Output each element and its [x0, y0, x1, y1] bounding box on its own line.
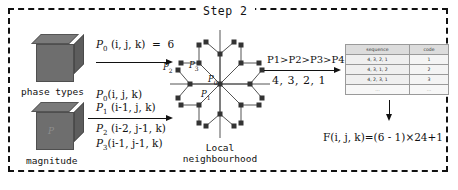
neighbourhood-caption-line1: Local [206, 142, 235, 153]
middle-arrow-head [334, 67, 341, 73]
cube-side-face [74, 102, 84, 142]
table-cell-sequence: 4, 3, 1, 2 [346, 65, 410, 75]
neighbourhood-label-p3: P3 [189, 60, 199, 72]
cube-top-face [31, 102, 79, 112]
arrow-top-shaft [96, 62, 168, 63]
table-cell-sequence: 4, 3, 2, 1 [346, 55, 410, 65]
phase-types-cube-icon [26, 34, 86, 84]
table-header-code: code [409, 45, 448, 55]
table-cell-code: 1 [409, 55, 448, 65]
neighbourhood-label-p1: P1 [201, 89, 211, 101]
magnitude-caption: magnitude [26, 155, 77, 166]
neighbourhood-label-p0: P0 [208, 74, 218, 86]
table-cell-code: ... [409, 85, 448, 95]
down-arrow-head [386, 114, 392, 121]
arrow-bottom-label-p3: P3(i-1, j-1, k) [96, 137, 163, 152]
figure-canvas: Step 2 phase types P0 (i, j, k) = 6 P ma… [0, 0, 458, 190]
magnitude-cube-mark: P [48, 126, 54, 136]
arrow-bottom-label-p1: P1 (i-1, j, k) [96, 101, 156, 116]
magnitude-cube-icon: P [26, 102, 86, 152]
step-title: Step 2 [196, 4, 255, 18]
local-neighbourhood-diagram [168, 28, 272, 140]
neighbourhood-label-p2: P2 [163, 62, 173, 74]
table-cell-code: 2 [409, 65, 448, 75]
cube-front-face [36, 44, 74, 82]
cube-top-face [31, 34, 79, 44]
table-cell-sequence: ... [346, 85, 410, 95]
table-row: 4, 3, 1, 2 2 [346, 65, 449, 75]
table-row: 4, 2, 3, 1 3 [346, 75, 449, 85]
table-cell-sequence: 4, 2, 3, 1 [346, 75, 410, 85]
table-header-sequence: sequence [346, 45, 410, 55]
phase-types-caption: phase types [21, 86, 84, 97]
cube-front-face [36, 112, 74, 150]
neighbourhood-svg [168, 28, 272, 140]
table-header-row: sequence code [346, 45, 449, 55]
arrow-bottom-shaft [88, 118, 168, 119]
middle-arrow-label-below: 4, 3, 2, 1 [272, 74, 326, 87]
middle-arrow-label-above: P1>P2>P3>P4 [267, 54, 345, 65]
table-cell-code: 3 [409, 75, 448, 85]
sequence-code-table: sequence code 4, 3, 2, 1 1 4, 3, 1, 2 2 … [345, 44, 449, 95]
table-row: ... ... [346, 85, 449, 95]
result-formula: F(i, j, k)=(6 - 1)×24+1 [323, 131, 443, 143]
arrow-top-label: P0 (i, j, k) = 6 [96, 38, 174, 53]
middle-arrow-shaft [264, 70, 336, 71]
neighbourhood-caption: Local neighbourhood [160, 142, 280, 164]
neighbourhood-caption-line2: neighbourhood [183, 153, 257, 164]
arrow-bottom-label-p2: P2 (i-2, j-1, k) [96, 122, 166, 137]
cube-side-face [74, 34, 84, 74]
table-row: 4, 3, 2, 1 1 [346, 55, 449, 65]
